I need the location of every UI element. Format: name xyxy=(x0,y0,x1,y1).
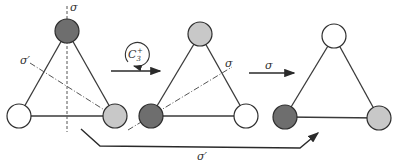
edge xyxy=(334,36,379,118)
atom-left xyxy=(273,105,297,129)
sigma-operation: σ xyxy=(249,59,294,73)
edge xyxy=(151,34,200,116)
c3-label: C3+ xyxy=(128,47,143,63)
edge xyxy=(67,31,115,116)
edge xyxy=(285,117,379,118)
triangle-initial: σ σ′ xyxy=(7,1,127,132)
edge xyxy=(285,36,334,117)
atom-top xyxy=(322,24,346,48)
atom-right xyxy=(103,104,127,128)
triangle-after-c3: σ xyxy=(128,22,258,130)
sigma-prime-label: σ′ xyxy=(20,54,31,67)
atom-right xyxy=(367,106,391,130)
atom-top xyxy=(55,19,79,43)
sigma-prime-mirror-plane xyxy=(30,63,106,111)
sigma-prime-bottom-label: σ′ xyxy=(197,150,208,163)
sigma-prime-arrow xyxy=(81,129,318,148)
sigma-label: σ xyxy=(225,57,233,70)
sigma-arrow-label: σ xyxy=(265,59,273,72)
atom-right xyxy=(234,104,258,128)
c3-operation: C3+ xyxy=(111,42,160,71)
symmetry-diagram: σ σ′ C3+ σ σ σ′ xyxy=(0,0,404,164)
triangle-after-sigma xyxy=(273,24,391,130)
sigma-label: σ xyxy=(70,1,78,14)
edge xyxy=(200,34,246,116)
atom-left xyxy=(139,104,163,128)
sigma-prime-operation: σ′ xyxy=(81,129,318,163)
atom-top xyxy=(188,22,212,46)
edge xyxy=(19,31,67,116)
atom-left xyxy=(7,104,31,128)
